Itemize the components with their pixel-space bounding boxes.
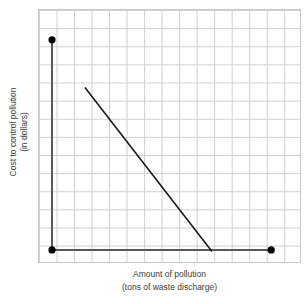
y-axis-label-line2: (in dollars) [19, 88, 30, 177]
x-axis-label-line2: (tons of waste discharge) [38, 281, 301, 294]
y-axis-label-line1: Cost to control pollution [8, 88, 19, 177]
x-axis-label-line1: Amount of pollution [38, 268, 301, 281]
y-axis-label-text: Cost to control pollution (in dollars) [8, 88, 30, 177]
y-axis-label: Cost to control pollution (in dollars) [0, 0, 38, 264]
x-axis-label: Amount of pollution (tons of waste disch… [38, 268, 301, 294]
plot-area-grid [38, 9, 301, 263]
chart-figure: Cost to control pollution (in dollars) A… [0, 0, 308, 304]
